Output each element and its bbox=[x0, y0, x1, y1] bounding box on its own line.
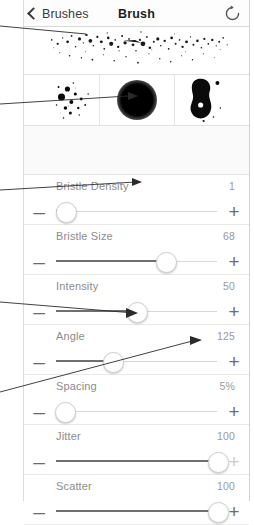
slider-header: Intensity50 bbox=[24, 275, 249, 297]
decrement-button[interactable]: – bbox=[24, 251, 54, 272]
slider-controls: –+ bbox=[24, 347, 249, 375]
slider-row-bristle-density: Bristle Density1–+ bbox=[24, 175, 249, 225]
brush-stroke-preview[interactable] bbox=[24, 27, 249, 75]
slider-header: Angle125 bbox=[24, 325, 249, 347]
slider-track-fill bbox=[56, 260, 165, 262]
decrement-button[interactable]: – bbox=[24, 501, 54, 522]
slider-header: Scatter100 bbox=[24, 475, 249, 497]
slider-row-jitter: Jitter100–+ bbox=[24, 425, 249, 475]
increment-button[interactable]: + bbox=[219, 402, 249, 421]
increment-button[interactable]: + bbox=[219, 302, 249, 321]
slider-value: 5% bbox=[219, 380, 235, 392]
increment-button[interactable]: + bbox=[219, 202, 249, 221]
slider-header: Spacing5% bbox=[24, 375, 249, 397]
slider-track-area[interactable] bbox=[56, 197, 217, 225]
slider-thumb[interactable] bbox=[208, 502, 229, 523]
brush-dab-cluster-preview[interactable] bbox=[24, 75, 99, 125]
slider-value: 1 bbox=[229, 180, 235, 192]
slider-thumb[interactable] bbox=[208, 452, 229, 473]
brush-grain-blob-preview[interactable] bbox=[174, 75, 249, 125]
slider-label: Intensity bbox=[56, 280, 98, 292]
slider-list: Bristle Density1–+Bristle Size68–+Intens… bbox=[24, 175, 249, 525]
slider-controls: –+ bbox=[24, 297, 249, 325]
page-title: Brush bbox=[24, 0, 249, 27]
slider-label: Bristle Density bbox=[56, 180, 129, 192]
panel-header: Brushes Brush bbox=[24, 0, 249, 27]
decrement-button[interactable]: – bbox=[24, 351, 54, 372]
increment-button[interactable]: + bbox=[219, 352, 249, 371]
slider-track bbox=[56, 211, 217, 212]
slider-row-angle: Angle125–+ bbox=[24, 325, 249, 375]
slider-thumb[interactable] bbox=[56, 202, 77, 223]
decrement-button[interactable]: – bbox=[24, 451, 54, 472]
slider-header: Bristle Density1 bbox=[24, 175, 249, 197]
slider-controls: –+ bbox=[24, 397, 249, 425]
grain-blob-canvas bbox=[174, 75, 249, 125]
slider-label: Spacing bbox=[56, 380, 97, 392]
soft-round-dab bbox=[117, 80, 157, 120]
decrement-button[interactable]: – bbox=[24, 301, 54, 322]
brush-shape-preview-row bbox=[24, 75, 249, 126]
slider-track-area[interactable] bbox=[56, 447, 217, 475]
decrement-button[interactable]: – bbox=[24, 201, 54, 222]
slider-row-intensity: Intensity50–+ bbox=[24, 275, 249, 325]
slider-controls: –+ bbox=[24, 247, 249, 275]
panel-spacer-section bbox=[24, 126, 249, 175]
slider-header: Bristle Size68 bbox=[24, 225, 249, 247]
slider-label: Jitter bbox=[56, 430, 81, 442]
slider-value: 125 bbox=[217, 330, 235, 342]
slider-row-bristle-size: Bristle Size68–+ bbox=[24, 225, 249, 275]
increment-button[interactable]: + bbox=[219, 252, 249, 271]
slider-track-fill bbox=[56, 310, 137, 312]
slider-track-area[interactable] bbox=[56, 347, 217, 375]
slider-label: Scatter bbox=[56, 480, 92, 492]
slider-controls: –+ bbox=[24, 497, 249, 525]
slider-controls: –+ bbox=[24, 197, 249, 225]
slider-thumb[interactable] bbox=[127, 302, 148, 323]
dab-cluster-canvas bbox=[24, 75, 99, 125]
slider-header: Jitter100 bbox=[24, 425, 249, 447]
slider-value: 68 bbox=[223, 230, 235, 242]
slider-label: Angle bbox=[56, 330, 85, 342]
slider-track bbox=[56, 411, 217, 412]
slider-value: 100 bbox=[217, 480, 235, 492]
slider-controls: –+ bbox=[24, 447, 249, 475]
slider-value: 50 bbox=[223, 280, 235, 292]
slider-value: 100 bbox=[217, 430, 235, 442]
slider-thumb[interactable] bbox=[156, 252, 177, 273]
brush-stroke-preview-canvas bbox=[24, 27, 249, 74]
slider-label: Bristle Size bbox=[56, 230, 113, 242]
slider-track-area[interactable] bbox=[56, 247, 217, 275]
slider-track-area[interactable] bbox=[56, 397, 217, 425]
slider-track-fill bbox=[56, 460, 217, 462]
decrement-button[interactable]: – bbox=[24, 401, 54, 422]
slider-track-area[interactable] bbox=[56, 297, 217, 325]
slider-track-fill bbox=[56, 510, 217, 512]
brush-settings-panel: Brushes Brush bbox=[23, 0, 250, 501]
slider-thumb[interactable] bbox=[55, 402, 76, 423]
slider-track-area[interactable] bbox=[56, 497, 217, 525]
slider-row-scatter: Scatter100–+ bbox=[24, 475, 249, 525]
slider-thumb[interactable] bbox=[103, 352, 124, 373]
slider-row-spacing: Spacing5%–+ bbox=[24, 375, 249, 425]
brush-soft-round-shape-preview[interactable] bbox=[99, 75, 174, 125]
refresh-circular-arrow-icon[interactable] bbox=[223, 4, 242, 23]
